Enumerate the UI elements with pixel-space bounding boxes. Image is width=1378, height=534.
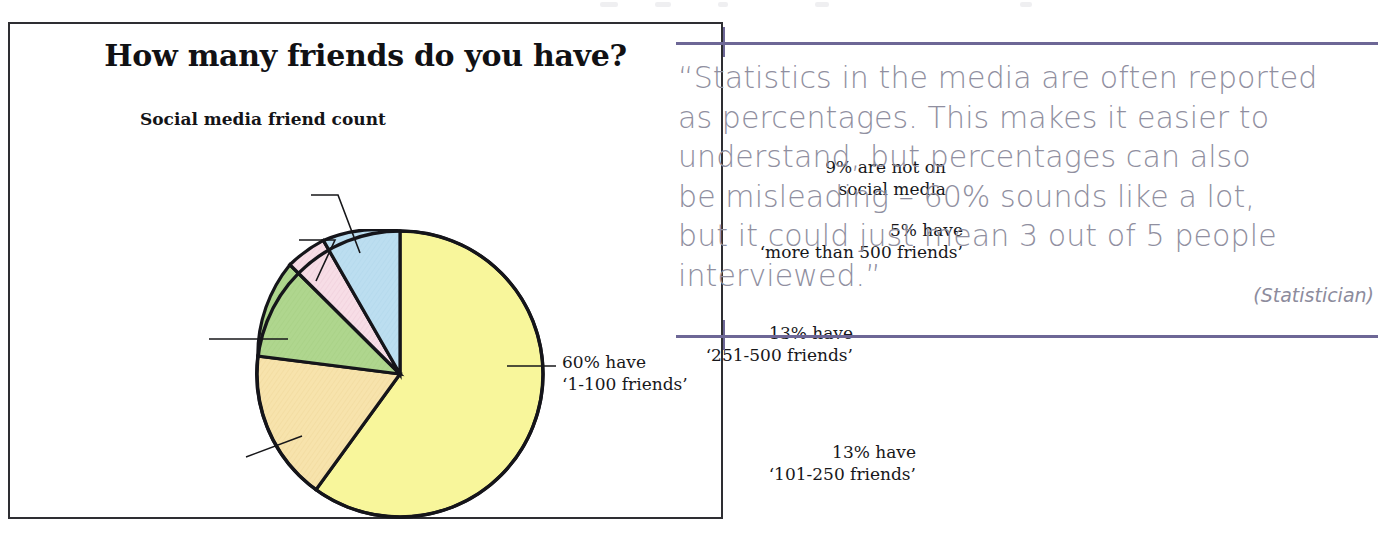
quote-line: understand, but percentages can also — [678, 137, 1378, 177]
scan-smudge — [655, 2, 671, 7]
chart-panel: How many friends do you have? Social med… — [8, 22, 723, 519]
quote-rule-top — [676, 42, 1378, 45]
chart-subtitle: Social media friend count — [140, 109, 386, 129]
quote-attribution: (Statistician) — [1253, 284, 1374, 306]
pie-chart — [255, 229, 545, 519]
callout-1-100: 60% have ‘1-100 friends’ — [562, 351, 688, 395]
page-root: How many friends do you have? Social med… — [0, 0, 1378, 534]
quote-line: be misleading – 60% sounds like a lot, — [678, 177, 1378, 217]
callout-line: 13% have — [769, 441, 916, 463]
quote-line: but it could just mean 3 out of 5 people — [678, 216, 1378, 256]
quote-text: “Statistics in the media are often repor… — [678, 58, 1378, 296]
quote-tick-bottom — [723, 320, 725, 350]
scan-smudge — [718, 2, 728, 7]
scan-smudge — [1020, 2, 1032, 7]
callout-line: 60% have — [562, 351, 688, 373]
pull-quote-block: “Statistics in the media are often repor… — [676, 36, 1376, 341]
scan-smudge — [815, 2, 829, 7]
page-title: How many friends do you have? — [10, 38, 721, 73]
quote-rule-bottom — [676, 335, 1378, 338]
callout-line: ‘101-250 friends’ — [769, 463, 916, 485]
callout-line: ‘251-500 friends’ — [706, 344, 853, 366]
scan-smudge — [600, 2, 618, 7]
quote-tick-top — [723, 27, 725, 57]
callout-line: ‘1-100 friends’ — [562, 373, 688, 395]
quote-line: “Statistics in the media are often repor… — [678, 58, 1378, 98]
callout-101-250: 13% have ‘101-250 friends’ — [769, 441, 916, 485]
quote-line: as percentages. This makes it easier to — [678, 98, 1378, 138]
